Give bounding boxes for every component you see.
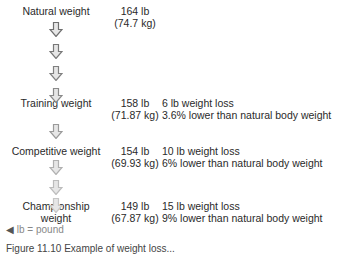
stage-weight-competitive: 154 lb (69.93 kg) — [98, 145, 172, 169]
down-arrow-icon — [49, 88, 63, 103]
stage-note-competitive: 10 lb weight loss 6% lower than natural … — [162, 145, 323, 169]
stage-weight-championship: 149 lb (67.87 kg) — [98, 200, 172, 224]
down-arrow-icon — [49, 44, 63, 59]
figure-caption: Figure 11.10 Example of weight loss... — [6, 243, 175, 254]
weight-lb: 158 lb — [98, 97, 172, 109]
weight-pct: 6% lower than natural body weight — [162, 157, 323, 169]
down-arrow-icon — [49, 124, 63, 139]
stage-note-championship: 15 lb weight loss 9% lower than natural … — [162, 200, 323, 224]
weight-kg: (71.87 kg) — [98, 109, 172, 121]
stage-label-natural: Natural weight — [10, 5, 102, 17]
weight-pct: 9% lower than natural body weight — [162, 212, 323, 224]
weight-kg: (67.87 kg) — [98, 212, 172, 224]
footnote: ◀ lb = pound — [6, 224, 64, 235]
weight-kg: (69.93 kg) — [98, 157, 172, 169]
down-arrow-icon — [49, 180, 63, 195]
down-arrow-icon — [49, 160, 63, 175]
stage-weight-natural: 164 lb (74.7 kg) — [105, 5, 165, 29]
weight-pct: 3.6% lower than natural body weight — [162, 109, 331, 121]
weight-lb: 164 lb — [105, 5, 165, 17]
down-arrow-icon — [49, 22, 63, 37]
weight-loss: 6 lb weight loss — [162, 97, 331, 109]
weight-kg: (74.7 kg) — [105, 17, 165, 29]
weight-loss: 15 lb weight loss — [162, 200, 323, 212]
footnote-text: lb = pound — [17, 224, 64, 235]
weight-loss: 10 lb weight loss — [162, 145, 323, 157]
down-arrow-icon — [49, 66, 63, 81]
down-arrow-icon — [49, 198, 63, 213]
label-line: weight — [10, 212, 102, 224]
triangle-left-icon: ◀ — [6, 224, 14, 235]
stage-note-training: 6 lb weight loss 3.6% lower than natural… — [162, 97, 331, 121]
weight-lb: 149 lb — [98, 200, 172, 212]
stage-weight-training: 158 lb (71.87 kg) — [98, 97, 172, 121]
weight-lb: 154 lb — [98, 145, 172, 157]
